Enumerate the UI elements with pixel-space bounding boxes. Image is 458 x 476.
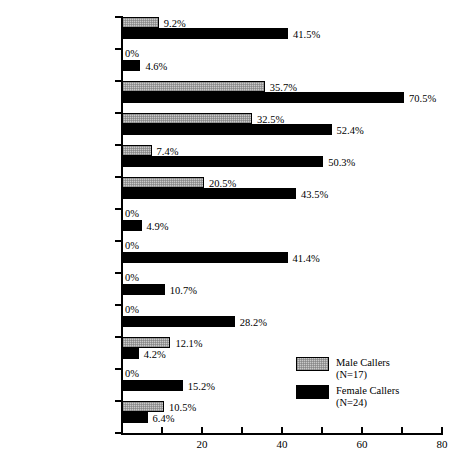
category-label: Threatened arrest now <box>0 274 118 297</box>
bar-female <box>122 412 148 423</box>
category-label: Arrested caller <box>0 343 118 355</box>
chart-legend: Male Callers (N=17) Female Callers (N=24… <box>296 357 399 413</box>
bar-female <box>122 316 235 327</box>
bar-value-label: 7.4% <box>157 146 179 157</box>
category-label: Ordered caller out of home <box>0 210 118 233</box>
bar-value-label: 0% <box>125 240 139 251</box>
bar-female <box>122 60 140 71</box>
bar-value-label: 70.5% <box>409 93 436 104</box>
bar-female <box>122 92 404 103</box>
bar-male <box>122 177 204 188</box>
y-axis-tick <box>115 336 122 338</box>
y-axis-tick <box>115 16 122 18</box>
bar-female <box>122 28 288 39</box>
category-label: Police did nothing <box>0 407 118 419</box>
bar-value-label: 50.3% <box>328 157 355 168</box>
legend-label-male: Male Callers (N=17) <box>336 357 390 380</box>
bar-value-label: 41.4% <box>293 253 320 264</box>
category-label: Tried to calm everyone <box>0 82 118 105</box>
bar-female <box>122 220 142 231</box>
bar-male <box>122 145 152 156</box>
bar-female <box>122 252 288 263</box>
bar-value-label: 43.5% <box>301 189 328 200</box>
x-axis-tick <box>401 427 403 435</box>
legend-swatch-male <box>296 357 329 371</box>
grouped-bar-chart: 9.2%41.5%0%4.6%35.7%70.5%32.5%52.4%7.4%5… <box>0 0 458 476</box>
legend-label-female-count: (N=24) <box>336 397 399 409</box>
category-label: Took information/ filed report <box>0 178 118 201</box>
legend-item-male: Male Callers (N=17) <box>296 357 399 380</box>
category-label: Warned <box>0 151 118 163</box>
bar-male <box>122 17 159 28</box>
bar-value-label: 32.5% <box>257 114 284 125</box>
bar-value-label: 0% <box>125 304 139 315</box>
category-label: Hit or pushed <box>0 55 118 67</box>
category-label: Ordered caller's spouse out of home <box>0 242 118 265</box>
bar-female <box>122 124 332 135</box>
x-axis-tick <box>441 427 443 435</box>
legend-label-male-count: (N=17) <box>336 369 390 381</box>
bar-male <box>122 113 252 124</box>
bar-value-label: 52.4% <box>337 125 364 136</box>
bar-male <box>122 81 265 92</box>
category-label: Arrested caller's spouse <box>0 370 118 393</box>
legend-item-female: Female Callers (N=24) <box>296 385 399 408</box>
x-axis-tick <box>281 427 283 435</box>
bar-value-label: 0% <box>125 272 139 283</box>
bar-value-label: 35.7% <box>270 82 297 93</box>
bar-value-label: 4.2% <box>144 349 166 360</box>
bar-female <box>122 188 296 199</box>
legend-label-male-name: Male Callers <box>336 357 390 369</box>
legend-swatch-female <box>296 385 329 399</box>
bar-male <box>122 337 170 348</box>
y-axis-tick <box>115 400 122 402</box>
legend-label-female: Female Callers (N=24) <box>336 385 399 408</box>
x-axis-tick <box>121 427 123 435</box>
bar-value-label: 0% <box>125 208 139 219</box>
category-label: Took time to listen to story <box>0 114 118 137</box>
bar-value-label: 41.5% <box>293 29 320 40</box>
bar-value-label: 6.4% <box>153 413 175 424</box>
x-axis-tick <box>201 427 203 435</box>
bar-male <box>122 401 164 412</box>
bar-female <box>122 348 139 359</box>
y-axis-tick <box>115 144 122 146</box>
bar-value-label: 15.2% <box>188 381 215 392</box>
bar-value-label: 9.2% <box>164 18 186 29</box>
bar-female <box>122 156 323 167</box>
y-axis-tick <box>115 48 122 50</box>
bar-value-label: 0% <box>125 368 139 379</box>
x-axis-tick-label: 40 <box>262 438 302 450</box>
x-axis-tick-label: 60 <box>342 438 382 450</box>
category-label: Threatened arrest next time <box>0 306 118 329</box>
x-axis-tick-label: 80 <box>422 438 458 450</box>
x-axis-tick-label: 20 <box>182 438 222 450</box>
bar-value-label: 10.7% <box>170 285 197 296</box>
bar-value-label: 0% <box>125 48 139 59</box>
bar-value-label: 12.1% <box>175 338 202 349</box>
bar-female <box>122 380 183 391</box>
bar-value-label: 20.5% <box>209 178 236 189</box>
x-axis-tick <box>241 427 243 435</box>
bar-value-label: 4.6% <box>145 61 167 72</box>
category-label: Broke up fight <box>0 23 118 35</box>
bar-value-label: 10.5% <box>169 402 196 413</box>
bar-value-label: 4.9% <box>147 221 169 232</box>
bar-female <box>122 284 165 295</box>
bar-value-label: 28.2% <box>240 317 267 328</box>
legend-label-female-name: Female Callers <box>336 385 399 397</box>
x-axis-tick <box>361 427 363 435</box>
x-axis-tick <box>321 427 323 435</box>
x-axis-tick <box>161 427 163 435</box>
